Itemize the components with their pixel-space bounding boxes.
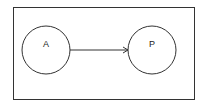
node-a-label: A <box>43 39 49 49</box>
node-p-circle <box>128 26 176 74</box>
node-p-label: P <box>149 39 155 49</box>
node-a-circle <box>22 26 70 74</box>
diagram-canvas <box>0 0 203 105</box>
